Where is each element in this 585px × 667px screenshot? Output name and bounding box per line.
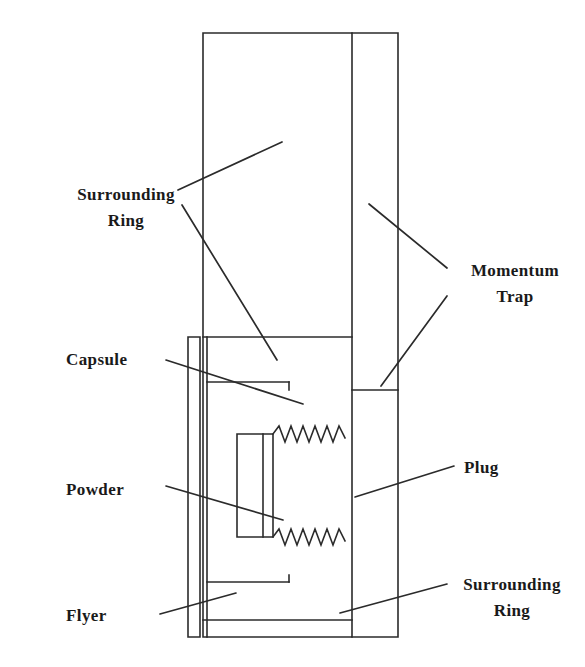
leader-surrounding-ring-top xyxy=(178,142,282,190)
plug-upper-thread xyxy=(273,426,345,442)
leader-powder xyxy=(166,486,283,520)
label-plug-line1: Plug xyxy=(464,456,499,481)
label-momentum-trap-line1: Momentum xyxy=(452,258,578,284)
label-surrounding-ring-bottom-line2: Ring xyxy=(448,598,576,624)
label-surrounding-ring-top: Surrounding Ring xyxy=(62,182,190,233)
diagram-canvas xyxy=(0,0,585,667)
leader-plug xyxy=(355,466,454,497)
leader-momentum-trap-upper xyxy=(369,204,447,268)
label-surrounding-ring-top-line2: Ring xyxy=(62,208,190,234)
surrounding-ring-body xyxy=(203,33,352,637)
leader-flyer xyxy=(160,593,236,614)
label-capsule-line1: Capsule xyxy=(66,348,127,373)
label-surrounding-ring-bottom-line1: Surrounding xyxy=(448,572,576,598)
flyer-plate xyxy=(188,337,200,637)
powder-chamber xyxy=(237,434,273,537)
leader-momentum-trap-lower xyxy=(381,296,447,386)
leader-surrounding-ring-bottom xyxy=(340,584,447,613)
label-surrounding-ring-top-line1: Surrounding xyxy=(62,182,190,208)
leader-lines xyxy=(160,142,454,614)
label-powder: Powder xyxy=(66,478,124,503)
technical-diagram: Surrounding Ring Momentum Trap Capsule P… xyxy=(0,0,585,667)
label-momentum-trap: Momentum Trap xyxy=(452,258,578,309)
label-flyer: Flyer xyxy=(66,604,107,629)
momentum-trap-body xyxy=(352,33,398,637)
plug-lower-thread xyxy=(273,529,345,545)
assembly-outline xyxy=(188,33,398,637)
label-powder-line1: Powder xyxy=(66,478,124,503)
label-capsule: Capsule xyxy=(66,348,127,373)
label-plug: Plug xyxy=(464,456,499,481)
label-momentum-trap-line2: Trap xyxy=(452,284,578,310)
label-surrounding-ring-bottom: Surrounding Ring xyxy=(448,572,576,623)
label-flyer-line1: Flyer xyxy=(66,604,107,629)
